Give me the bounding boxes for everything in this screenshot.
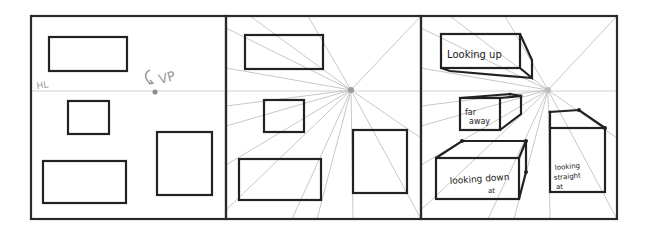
rect-right [353, 130, 407, 193]
box-looking-straight-at: looking straight at [549, 108, 608, 192]
panel-1-frame [31, 16, 226, 219]
label-at: at [556, 183, 563, 191]
vanishing-point-dot [348, 87, 354, 93]
rect-middle [68, 101, 109, 134]
rect-bottom-left [43, 161, 126, 203]
panel-2 [226, 16, 421, 219]
label-straight: straight [553, 172, 581, 182]
label-looking: looking [554, 162, 580, 172]
box-looking-down: looking down at [436, 139, 528, 199]
perspective-diagram: HL VP [0, 0, 645, 232]
box-far-away: far away [460, 93, 523, 131]
vanishing-point-dot [153, 90, 158, 95]
label-away: away [469, 117, 490, 126]
rect-bottom-left [239, 159, 321, 200]
label-looking-up: Looking up [447, 49, 502, 60]
horizon-label: HL [36, 79, 49, 91]
panel-3: Looking up far away looking down at [421, 16, 617, 219]
rect-top-left [49, 37, 127, 71]
rect-top-left [245, 35, 323, 69]
rect-right [157, 132, 212, 195]
vp-label: VP [157, 68, 177, 87]
panel-1: HL VP [31, 16, 226, 219]
label-far: far [465, 108, 477, 117]
label-looking-down-at: at [488, 187, 495, 195]
vanishing-point-dot [545, 87, 551, 93]
box-looking-up: Looking up [441, 34, 532, 78]
